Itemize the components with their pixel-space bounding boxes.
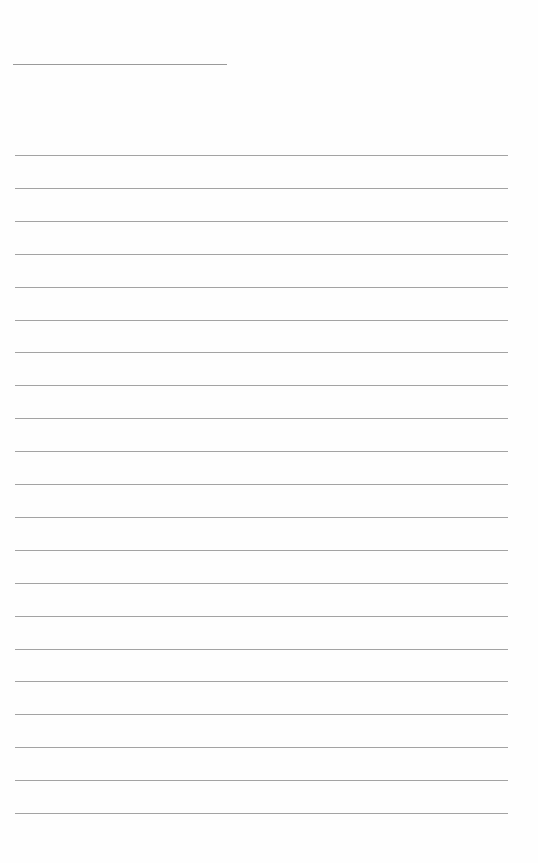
ruled-line [15, 385, 508, 386]
ruled-line [15, 221, 508, 222]
ruled-line [15, 451, 508, 452]
ruled-line [15, 320, 508, 321]
ruled-line [15, 188, 508, 189]
ruled-line [15, 352, 508, 353]
ruled-line [15, 681, 508, 682]
ruled-line [15, 484, 508, 485]
ruled-line [15, 418, 508, 419]
ruled-line [15, 649, 508, 650]
name-line [13, 64, 227, 65]
ruled-line [15, 287, 508, 288]
ruled-line [15, 254, 508, 255]
ruled-line [15, 155, 508, 156]
ruled-line [15, 780, 508, 781]
ruled-line [15, 517, 508, 518]
ruled-line [15, 747, 508, 748]
lined-paper-page [0, 0, 538, 863]
ruled-line [15, 616, 508, 617]
ruled-line [15, 550, 508, 551]
ruled-line [15, 583, 508, 584]
ruled-line [15, 714, 508, 715]
ruled-line [15, 813, 508, 814]
